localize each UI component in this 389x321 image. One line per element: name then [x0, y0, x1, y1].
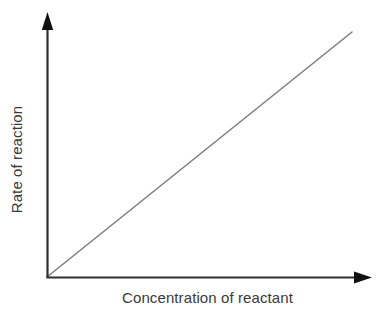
chart-figure: Rate of reaction Concentration of reacta… [0, 0, 389, 321]
x-axis-label: Concentration of reactant [0, 290, 389, 305]
y-axis-label-text: Rate of reaction [10, 106, 25, 214]
plot-area [0, 0, 389, 321]
y-axis-label: Rate of reaction [0, 0, 34, 321]
